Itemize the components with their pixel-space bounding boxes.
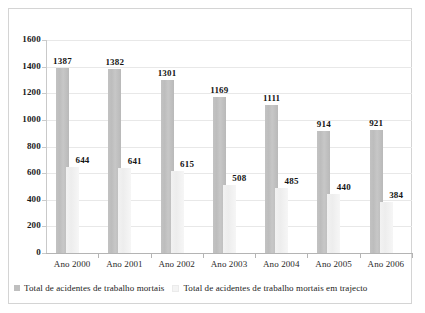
y-axis-tick-label: 800 (1, 141, 41, 151)
x-axis-category-label: Ano 2003 (203, 259, 255, 269)
gridline (46, 40, 412, 41)
x-axis-category-label: Ano 2002 (151, 259, 203, 269)
y-axis-tick-label: 600 (1, 167, 41, 177)
x-axis-tick-mark (360, 253, 361, 258)
x-axis-tick-mark (307, 253, 308, 258)
bar-value-label-series-2: 485 (277, 176, 306, 186)
chart-figure: 16001400120010008006004002000 1387644138… (0, 0, 425, 313)
y-axis-tick-mark (42, 120, 46, 121)
legend-swatch-icon-series-1 (14, 285, 20, 291)
y-axis-tick-mark (42, 226, 46, 227)
legend-entry-series-2: Total de acidentes de trabalho mortais e… (172, 283, 367, 293)
x-axis-category-label: Ano 2005 (307, 259, 359, 269)
bar-value-label-series-1: 1301 (154, 68, 181, 78)
chart-legend: Total de acidentes de trabalho mortais T… (14, 283, 367, 293)
bar-series-2 (118, 168, 131, 253)
gridline (46, 147, 412, 148)
y-axis-tick-mark (42, 147, 46, 148)
bar-value-label-series-1: 1111 (258, 93, 285, 103)
legend-swatch-icon-series-2 (172, 285, 179, 292)
bar-value-label-series-2: 644 (68, 155, 97, 165)
y-axis-tick-label: 1600 (1, 34, 41, 44)
x-axis-tick-mark (412, 253, 413, 258)
bar-value-label-series-1: 921 (363, 118, 390, 128)
x-axis-tick-mark (98, 253, 99, 258)
bar-value-label-series-1: 1382 (101, 57, 128, 67)
bar-value-label-series-1: 1169 (206, 85, 233, 95)
x-axis-category-label: Ano 2006 (360, 259, 412, 269)
bar-value-label-series-1: 1387 (49, 56, 76, 66)
bar-series-2 (223, 185, 236, 253)
plot-area: 1387644138264113016151169508111148591444… (46, 40, 412, 253)
y-axis-line (46, 40, 47, 254)
x-axis-category-label: Ano 2001 (98, 259, 150, 269)
y-axis-tick-label: 200 (1, 220, 41, 230)
y-axis-tick-mark (42, 173, 46, 174)
y-axis-tick-mark (42, 200, 46, 201)
gridline (46, 120, 412, 121)
x-axis-category-label: Ano 2000 (46, 259, 98, 269)
y-axis-tick-label: 0 (1, 247, 41, 257)
bar-value-label-series-2: 508 (225, 173, 254, 183)
x-axis-category-label: Ano 2004 (255, 259, 307, 269)
x-axis-tick-mark (151, 253, 152, 258)
x-axis-tick-mark (203, 253, 204, 258)
legend-entry-series-1: Total de acidentes de trabalho mortais (14, 283, 164, 293)
y-axis-tick-label: 1200 (1, 87, 41, 97)
bar-value-label-series-2: 384 (382, 190, 411, 200)
legend-label-series-1: Total de acidentes de trabalho mortais (24, 283, 164, 293)
bar-series-2 (171, 171, 184, 253)
y-axis-labels: 16001400120010008006004002000 (0, 0, 41, 313)
y-axis-tick-mark (42, 253, 46, 254)
y-axis-tick-label: 400 (1, 194, 41, 204)
y-axis-tick-mark (42, 67, 46, 68)
y-axis-tick-label: 1000 (1, 114, 41, 124)
bar-series-2 (275, 188, 288, 253)
x-axis-line (46, 253, 412, 254)
bar-series-2 (380, 202, 393, 253)
x-axis-tick-mark (255, 253, 256, 258)
bar-series-2 (327, 194, 340, 253)
bar-value-label-series-2: 615 (173, 159, 202, 169)
bar-series-2 (66, 167, 79, 253)
y-axis-tick-label: 1400 (1, 61, 41, 71)
legend-label-series-2: Total de acidentes de trabalho mortais e… (183, 283, 367, 293)
y-axis-tick-mark (42, 40, 46, 41)
y-axis-tick-mark (42, 93, 46, 94)
bar-value-label-series-1: 914 (310, 119, 337, 129)
bar-value-label-series-2: 440 (329, 182, 358, 192)
bar-value-label-series-2: 641 (120, 156, 149, 166)
